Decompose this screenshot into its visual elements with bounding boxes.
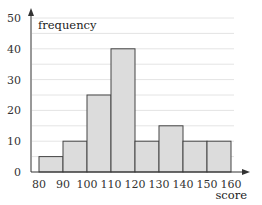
x-tick-label: 150 [197, 178, 218, 191]
x-tick-labels: 8090100110120130140150160 [32, 178, 242, 191]
histogram-bar [39, 157, 63, 172]
histogram-bar [135, 141, 159, 172]
histogram-bar [183, 141, 207, 172]
y-tick-label: 30 [7, 74, 21, 87]
histogram-chart: 01020304050 8090100110120130140150160 fr… [0, 0, 262, 205]
histogram-bar [111, 49, 135, 172]
y-tick-label: 20 [7, 104, 21, 117]
x-tick-label: 130 [149, 178, 170, 191]
y-tick-label: 10 [7, 135, 21, 148]
x-tick-label: 90 [56, 178, 70, 191]
x-tick-label: 140 [173, 178, 194, 191]
y-tick-label: 0 [14, 166, 21, 179]
histogram-bar [159, 126, 183, 172]
y-tick-label: 50 [7, 12, 21, 25]
y-tick-labels: 01020304050 [7, 12, 21, 179]
histogram-bar [207, 141, 231, 172]
y-axis-label: frequency [38, 18, 97, 32]
x-tick-label: 120 [125, 178, 146, 191]
x-tick-label: 100 [77, 178, 98, 191]
y-tick-label: 40 [7, 43, 21, 56]
x-axis-arrow-icon [242, 169, 250, 175]
x-axis-label: score [215, 188, 247, 202]
y-axis-arrow-icon [28, 8, 34, 16]
x-tick-label: 80 [32, 178, 46, 191]
histogram-bar [63, 141, 87, 172]
histogram-bar [87, 95, 111, 172]
x-tick-label: 110 [101, 178, 122, 191]
